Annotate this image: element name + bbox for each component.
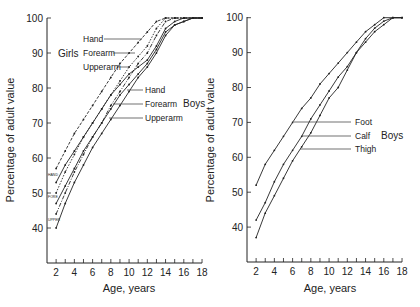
data-point <box>101 133 103 135</box>
start-label-fore: FORE <box>48 195 58 199</box>
data-point <box>310 132 312 134</box>
data-point <box>101 122 103 124</box>
x-tick-label: 18 <box>396 266 408 277</box>
left-x-axis-label: Age, years <box>103 282 156 294</box>
data-point <box>319 115 321 117</box>
data-point <box>146 31 148 33</box>
data-point <box>137 77 139 79</box>
data-point <box>55 182 57 184</box>
data-point <box>83 154 85 156</box>
boys-label-right: Boys <box>381 130 403 141</box>
data-point <box>283 135 285 137</box>
data-point <box>201 17 203 19</box>
boys-forearm-label: Forearm <box>145 99 177 109</box>
boys-label-left: Boys <box>183 98 205 109</box>
data-point <box>119 80 121 82</box>
y-tick-label: 70 <box>232 117 244 128</box>
data-point <box>64 192 66 194</box>
data-point <box>156 28 158 30</box>
y-tick-label: 50 <box>32 188 44 199</box>
data-point <box>273 181 275 183</box>
data-point <box>55 213 57 215</box>
data-point <box>146 52 148 54</box>
data-point <box>165 31 167 33</box>
girls-forearm-label: Forearm <box>83 48 115 58</box>
right-lines <box>255 17 403 239</box>
data-point <box>183 17 185 19</box>
data-point <box>319 83 321 85</box>
data-point <box>137 42 139 44</box>
x-tick-label: 14 <box>160 267 172 278</box>
series-line-girls-forearm <box>56 18 202 193</box>
data-point <box>374 24 376 26</box>
data-point <box>383 24 385 26</box>
right-panel: 40506070809010024681012141618 Percentage… <box>204 12 408 294</box>
foot-label: Foot <box>355 117 373 127</box>
y-tick-label: 80 <box>32 83 44 94</box>
data-point <box>146 66 148 68</box>
data-point <box>83 136 85 138</box>
y-tick-label: 60 <box>32 153 44 164</box>
data-point <box>374 27 376 29</box>
data-point <box>156 45 158 47</box>
data-point <box>146 63 148 65</box>
data-point <box>64 185 66 187</box>
data-point <box>401 17 403 19</box>
data-point <box>92 147 94 149</box>
data-point <box>192 17 194 19</box>
data-point <box>356 41 358 43</box>
y-tick-label: 90 <box>232 47 244 58</box>
data-point <box>255 219 257 221</box>
right-x-axis-label: Age, years <box>304 282 357 294</box>
data-point <box>264 212 266 214</box>
data-point <box>165 35 167 37</box>
data-point <box>255 184 257 186</box>
y-tick-label: 70 <box>32 118 44 129</box>
girls-hand-label: Hand <box>83 34 104 44</box>
data-point <box>337 76 339 78</box>
data-point <box>283 177 285 179</box>
left-y-axis-label: Percentage of adult value <box>4 78 16 203</box>
data-point <box>319 104 321 106</box>
data-point <box>328 73 330 75</box>
data-point <box>137 56 139 58</box>
data-point <box>110 108 112 110</box>
data-point <box>73 168 75 170</box>
girls-label: Girls <box>58 48 79 59</box>
x-tick-label: 2 <box>53 267 59 278</box>
figure: 40506070809010024681012141618 Percentage… <box>0 0 420 307</box>
data-point <box>73 150 75 152</box>
data-point <box>337 87 339 89</box>
data-point <box>165 28 167 30</box>
data-point <box>328 97 330 99</box>
data-point <box>165 21 167 23</box>
data-point <box>365 38 367 40</box>
data-point <box>73 182 75 184</box>
start-label-upper: UPPER <box>48 218 61 222</box>
girls-upperarm-label: Upperarm <box>83 62 121 72</box>
data-point <box>292 160 294 162</box>
calf-label: Calf <box>355 131 371 141</box>
data-point <box>119 105 121 107</box>
data-point <box>174 17 176 19</box>
y-tick-label: 100 <box>226 12 243 23</box>
data-point <box>55 203 57 205</box>
data-point <box>110 119 112 121</box>
data-point <box>73 171 75 173</box>
y-tick-label: 100 <box>26 13 43 24</box>
right-y-axis-label: Percentage of adult value <box>204 78 216 203</box>
data-point <box>346 52 348 54</box>
data-point <box>273 195 275 197</box>
data-point <box>110 105 112 107</box>
data-point <box>156 52 158 54</box>
data-point <box>119 84 121 86</box>
left-axes: 40506070809010024681012141618 <box>26 13 208 279</box>
data-point <box>156 49 158 51</box>
data-point <box>110 94 112 96</box>
series-line-boys-foot <box>256 18 402 186</box>
x-tick-label: 18 <box>196 267 208 278</box>
data-point <box>83 119 85 121</box>
y-tick-label: 50 <box>232 187 244 198</box>
x-tick-label: 16 <box>378 266 390 277</box>
data-point <box>165 17 167 19</box>
